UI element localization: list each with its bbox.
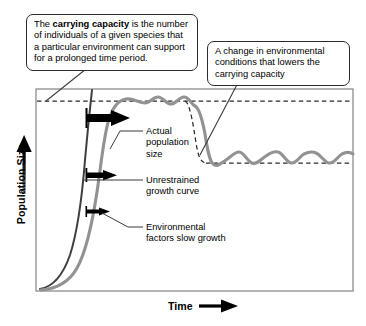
label-unrestrained-growth-curve: Unrestrained growth curve bbox=[146, 175, 199, 198]
label-actual-population-size: Actual population size bbox=[146, 126, 189, 160]
label-line-2: factors slow growth bbox=[146, 233, 226, 244]
callout-carrying-capacity: The carrying capacity is the number of i… bbox=[26, 14, 198, 71]
callout-env-change-text: A change in environmental conditions tha… bbox=[215, 46, 325, 79]
callout-text-before-bold: The bbox=[34, 19, 53, 29]
y-axis-title: Population Size bbox=[15, 134, 27, 234]
label-line-1: Unrestrained bbox=[146, 175, 199, 186]
x-axis-arrow-icon bbox=[199, 300, 238, 313]
label-line-2: population bbox=[146, 137, 189, 148]
callout-bold-term: carrying capacity bbox=[53, 19, 129, 29]
label-line-3: size bbox=[146, 149, 189, 160]
figure-root: The carrying capacity is the number of i… bbox=[0, 0, 366, 326]
label-environmental-factors: Environmental factors slow growth bbox=[146, 222, 226, 245]
label-line-2: growth curve bbox=[146, 186, 199, 197]
x-axis-title: Time bbox=[168, 300, 193, 312]
label-line-1: Actual bbox=[146, 126, 189, 137]
callout-environmental-change: A change in environmental conditions tha… bbox=[207, 41, 350, 86]
label-line-1: Environmental bbox=[146, 222, 226, 233]
